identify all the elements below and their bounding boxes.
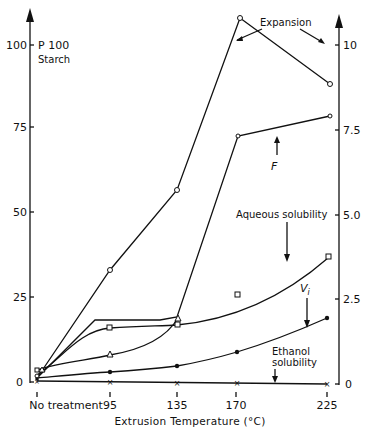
left-tick-100: 100 — [6, 39, 27, 52]
x-tick-135: 135 — [167, 399, 188, 412]
expansion-label: Expansion — [260, 17, 312, 28]
left-y-axis: 100 75 50 25 0 P 100 Starch — [6, 8, 70, 389]
left-tick-75: 75 — [13, 121, 27, 134]
starch-label: Starch — [38, 54, 70, 65]
series-ethanol-solubility: × × × × Ethanol solubility — [37, 346, 330, 389]
aqueous-label: Aqueous solubility — [236, 209, 327, 220]
p100-label: P 100 — [38, 39, 69, 52]
svg-text:×: × — [324, 380, 331, 389]
svg-text:×: × — [34, 378, 40, 386]
ethanol-label-1: Ethanol — [272, 346, 310, 357]
right-tick-2.5: 2.5 — [343, 293, 361, 306]
right-tick-0: 0 — [345, 378, 352, 391]
x-tick-225: 225 — [317, 399, 338, 412]
x-axis-label: Extrusion Temperature (°C) — [114, 415, 265, 427]
right-tick-5.0: 5.0 — [343, 209, 361, 222]
left-tick-0: 0 — [16, 376, 23, 389]
x-tick-95: 95 — [103, 399, 117, 412]
right-tick-7.5: 7.5 — [343, 124, 361, 137]
extrusion-chart: 100 75 50 25 0 P 100 Starch 10 7.5 5.0 2… — [0, 0, 366, 433]
left-tick-50: 50 — [13, 206, 27, 219]
series-p100-starch — [37, 315, 181, 370]
x-axis: No treatment 95 135 170 225 Extrusion Te… — [29, 392, 337, 427]
f-label: F — [271, 160, 278, 173]
origin-markers: × — [34, 367, 45, 386]
right-y-axis: 10 7.5 5.0 2.5 0 — [335, 14, 361, 391]
right-tick-10: 10 — [343, 39, 357, 52]
x-tick-no-treatment: No treatment — [29, 399, 103, 412]
vi-label: Vi — [300, 282, 311, 297]
left-tick-25: 25 — [13, 291, 27, 304]
ethanol-label-2: solubility — [272, 357, 317, 368]
svg-text:×: × — [234, 379, 241, 388]
svg-text:×: × — [174, 379, 181, 388]
svg-text:×: × — [107, 378, 114, 387]
x-tick-170: 170 — [226, 399, 247, 412]
